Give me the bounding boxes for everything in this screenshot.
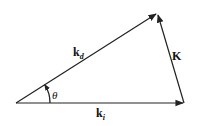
label-k-d: kd [73,45,85,61]
label-K: K [172,49,182,63]
angle-label: θ [52,89,58,101]
vector-k-d [16,14,156,103]
angle-arc [45,85,50,103]
label-k-i: ki [96,106,106,122]
vector-diagram: θ kd K ki [0,0,200,126]
